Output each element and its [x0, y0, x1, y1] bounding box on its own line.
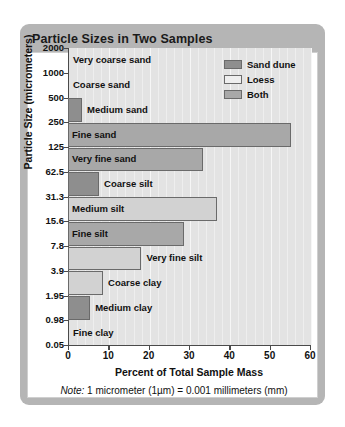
- x-axis-title: Percent of Total Sample Mass: [68, 366, 310, 378]
- x-axis-tick-mark: [68, 346, 69, 350]
- legend-item: Loess: [224, 73, 296, 86]
- x-axis-tick-label: 40: [209, 351, 249, 361]
- y-axis-tick-label: 31.3: [8, 192, 64, 202]
- note-prefix: Note:: [60, 385, 84, 396]
- y-axis-tick-label: 1.95: [8, 291, 64, 301]
- x-axis-tick-label: 10: [88, 351, 128, 361]
- y-axis-tick-label: 0.98: [8, 315, 64, 325]
- y-axis-tick-label: 0.05: [8, 340, 64, 350]
- legend-label: Sand dune: [247, 59, 296, 70]
- bar-category-label: Fine silt: [72, 229, 108, 239]
- legend-swatch: [224, 75, 242, 84]
- gridline-minor: [303, 48, 304, 345]
- y-axis-tick-label: 7.8: [8, 241, 64, 251]
- y-axis-tick-label: 125: [8, 142, 64, 152]
- y-axis-tick-label: 250: [8, 117, 64, 127]
- x-axis-tick-mark: [270, 346, 271, 350]
- legend-label: Both: [247, 89, 269, 100]
- x-axis-tick-label: 60: [290, 351, 330, 361]
- y-axis-tick-mark: [64, 48, 68, 49]
- bar-category-label: Coarse clay: [108, 278, 161, 288]
- x-axis-tick-mark: [229, 346, 230, 350]
- x-axis-tick-label: 30: [169, 351, 209, 361]
- gridline: [311, 48, 312, 345]
- y-axis-title: Particle Size (micrometers): [22, 12, 34, 192]
- y-axis-tick-label: 3.9: [8, 266, 64, 276]
- bar: [68, 98, 82, 122]
- x-axis-tick-label: 50: [250, 351, 290, 361]
- legend-label: Loess: [247, 74, 274, 85]
- x-axis-tick-label: 20: [129, 351, 169, 361]
- bar: [68, 271, 103, 295]
- y-axis-tick-label: 15.6: [8, 216, 64, 226]
- y-axis-tick-mark: [64, 320, 68, 321]
- x-axis-tick-mark: [149, 346, 150, 350]
- bar-category-label: Medium clay: [95, 303, 152, 313]
- x-axis-tick-mark: [310, 346, 311, 350]
- legend-item: Sand dune: [224, 58, 296, 71]
- y-axis-tick-label: 500: [8, 93, 64, 103]
- legend: Sand duneLoessBoth: [224, 58, 296, 103]
- chart-note: Note: 1 micrometer (1µm) = 0.001 millime…: [34, 385, 314, 396]
- bar: [68, 172, 99, 196]
- x-axis-tick-mark: [189, 346, 190, 350]
- note-text: 1 micrometer (1µm) = 0.001 millimeters (…: [87, 385, 288, 396]
- y-axis-tick-label: 1000: [8, 68, 64, 78]
- bar: [68, 247, 141, 271]
- bar-category-label: Medium silt: [72, 204, 124, 214]
- x-axis-tick-label: 0: [48, 351, 88, 361]
- legend-swatch: [224, 60, 242, 69]
- y-axis-tick-label: 2000: [8, 43, 64, 53]
- y-axis-tick-mark: [64, 73, 68, 74]
- legend-item: Both: [224, 88, 296, 101]
- bar-category-label: Fine clay: [73, 328, 114, 338]
- bar: [68, 296, 90, 320]
- bar-category-label: Very fine silt: [146, 253, 202, 263]
- bar-category-label: Coarse silt: [104, 179, 153, 189]
- legend-swatch: [224, 90, 242, 99]
- bar-category-label: Very coarse sand: [73, 55, 151, 65]
- bar-category-label: Medium sand: [87, 105, 148, 115]
- x-axis-tick-mark: [108, 346, 109, 350]
- bar-category-label: Very fine sand: [72, 154, 136, 164]
- bar-category-label: Coarse sand: [73, 80, 130, 90]
- chart-page: Particle Sizes in Two Samples Particle S…: [0, 0, 345, 427]
- y-axis-tick-label: 62.5: [8, 167, 64, 177]
- bar-category-label: Fine sand: [72, 130, 116, 140]
